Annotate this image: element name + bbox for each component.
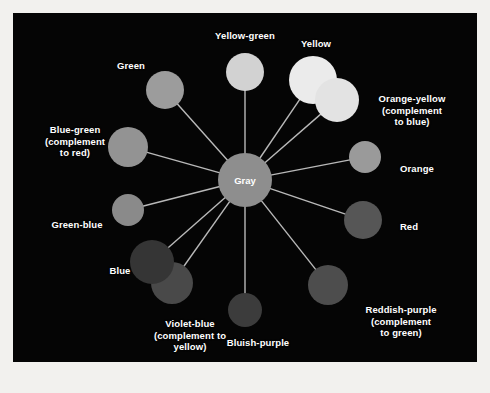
- hue-circle-bluish-purple[interactable]: [228, 293, 262, 327]
- spoke-line-blue-green: [145, 152, 220, 173]
- hue-circle-green[interactable]: [146, 71, 184, 109]
- hue-circle-orange-yellow[interactable]: [315, 78, 359, 122]
- spoke-line-violet-blue: [183, 201, 230, 267]
- color-wheel-figure: Yellow-greenYellowOrange-yellow(compleme…: [0, 0, 490, 393]
- gray-hub-group: [218, 153, 272, 207]
- color-wheel-svg: [13, 13, 477, 362]
- spoke-line-blue: [167, 197, 225, 249]
- hue-circle-orange[interactable]: [349, 141, 381, 173]
- spoke-line-orange: [271, 160, 352, 175]
- diagram-panel: Yellow-greenYellowOrange-yellow(compleme…: [13, 13, 477, 362]
- spoke-line-red: [270, 188, 347, 214]
- spoke-line-green-blue: [142, 186, 220, 206]
- hue-circle-blue-green[interactable]: [108, 127, 148, 167]
- hue-circle-blue[interactable]: [130, 240, 174, 284]
- hue-circle-yellow-green[interactable]: [226, 53, 264, 91]
- spoke-line-reddish-purple: [261, 200, 317, 270]
- hue-circle-red[interactable]: [344, 201, 382, 239]
- spoke-line-green: [176, 103, 227, 161]
- gray-hub-circle[interactable]: [218, 153, 272, 207]
- hue-circle-reddish-purple[interactable]: [308, 265, 348, 305]
- hue-circle-green-blue[interactable]: [112, 194, 144, 226]
